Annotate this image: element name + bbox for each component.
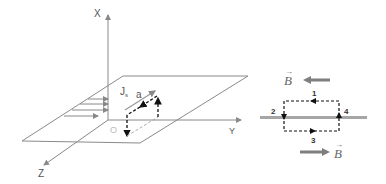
b-field-arrow-bottom — [300, 148, 330, 156]
segment-1-label: 1 — [312, 89, 317, 98]
origin-label: O — [110, 125, 117, 135]
segment-3-label: 3 — [311, 136, 316, 145]
segment-3-arrow — [310, 128, 316, 134]
segment-4-arrow — [336, 112, 342, 118]
x-axis-label: X — [94, 8, 101, 19]
current-sheet-edge — [260, 116, 367, 119]
y-axis-label: Y — [229, 126, 235, 136]
diagram-canvas: X Y Z O Js a B — [0, 0, 386, 184]
loop-cross-section-figure: B → 1 2 3 4 B → — [260, 67, 367, 161]
current-sheet-figure: X Y Z O Js a — [22, 8, 248, 179]
vector-hat-top: → — [285, 67, 293, 76]
segment-2-label: 2 — [271, 107, 276, 116]
b-field-arrow-top — [303, 76, 330, 84]
vector-hat-bottom: → — [335, 140, 343, 149]
z-axis-label: Z — [38, 168, 44, 179]
current-density-label: Js — [120, 86, 128, 98]
amperian-loop-3d — [127, 96, 158, 136]
segment-4-label: 4 — [344, 107, 349, 116]
segment-1-arrow — [310, 98, 316, 104]
side-length-label: a — [136, 89, 142, 100]
surface-current-arrows — [64, 99, 108, 116]
